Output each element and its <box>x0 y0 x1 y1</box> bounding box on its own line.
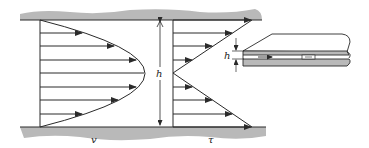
inset-gap-dimension <box>232 38 244 72</box>
velocity-profile <box>40 20 145 127</box>
bottom-plate <box>20 127 266 140</box>
top-plate <box>20 9 262 20</box>
gap-label: h <box>156 68 162 79</box>
inset-plates <box>243 34 350 66</box>
shear-label: τ <box>208 134 214 145</box>
shear-profile <box>173 20 252 127</box>
flow-between-plates-diagram: v h τ h <box>0 0 369 148</box>
inset-gap-label: h <box>224 50 230 61</box>
velocity-label: v <box>91 134 97 145</box>
